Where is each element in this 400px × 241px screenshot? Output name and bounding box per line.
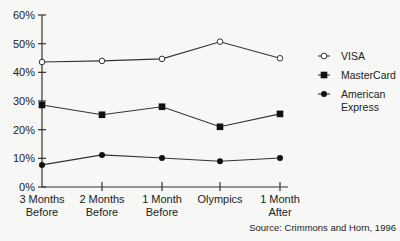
series-american-express (39, 152, 283, 168)
open-circle-marker (277, 55, 283, 61)
open-circle-marker (159, 56, 165, 62)
y-tick-label: 50% (13, 38, 35, 50)
legend-item: AmericanExpress (318, 88, 386, 113)
chart-legend: VISAMasterCardAmericanExpress (318, 50, 396, 113)
filled-circle-marker (39, 162, 45, 168)
legend-item: MasterCard (318, 69, 396, 81)
y-tick-label: 40% (13, 66, 35, 78)
filled-square-marker (321, 72, 328, 79)
y-tick-label: 60% (13, 9, 35, 21)
filled-square-marker (159, 103, 166, 110)
series-visa (39, 39, 283, 65)
filled-square-marker (217, 124, 224, 131)
filled-circle-marker (277, 155, 283, 161)
x-tick-label: Before (86, 206, 118, 218)
filled-square-marker (39, 102, 46, 109)
open-circle-marker (321, 53, 327, 59)
x-tick-label: 3 Months (19, 193, 65, 205)
x-tick-label: 1 Month (142, 193, 182, 205)
x-tick-label: 2 Months (79, 193, 125, 205)
legend-label: American (341, 88, 386, 100)
y-tick-label: 30% (13, 95, 35, 107)
chart-axes: 0%10%20%30%40%50%60%3 MonthsBefore2 Mont… (13, 9, 300, 218)
filled-square-marker (277, 111, 284, 118)
x-tick-label: Olympics (197, 193, 243, 205)
open-circle-marker (39, 59, 45, 65)
open-circle-marker (217, 39, 223, 45)
legend-label: Express (341, 101, 379, 113)
y-tick-label: 10% (13, 152, 35, 164)
chart-series (39, 39, 284, 168)
legend-item: VISA (318, 50, 365, 62)
legend-label: MasterCard (341, 69, 396, 81)
filled-circle-marker (99, 152, 105, 158)
open-circle-marker (99, 58, 105, 64)
filled-circle-marker (159, 155, 165, 161)
filled-circle-marker (321, 91, 327, 97)
filled-circle-marker (217, 158, 223, 164)
legend-label: VISA (341, 50, 365, 62)
y-tick-label: 0% (19, 181, 35, 193)
source-annotation: Source: Crimmons and Horn, 1996 (249, 222, 396, 233)
x-tick-label: Before (146, 206, 178, 218)
line-chart: 0%10%20%30%40%50%60%3 MonthsBefore2 Mont… (0, 0, 400, 241)
series-mastercard (39, 102, 284, 130)
x-tick-label: 1 Month (260, 193, 300, 205)
y-tick-label: 20% (13, 124, 35, 136)
x-tick-label: After (268, 206, 292, 218)
x-tick-label: Before (26, 206, 58, 218)
filled-square-marker (99, 111, 106, 118)
